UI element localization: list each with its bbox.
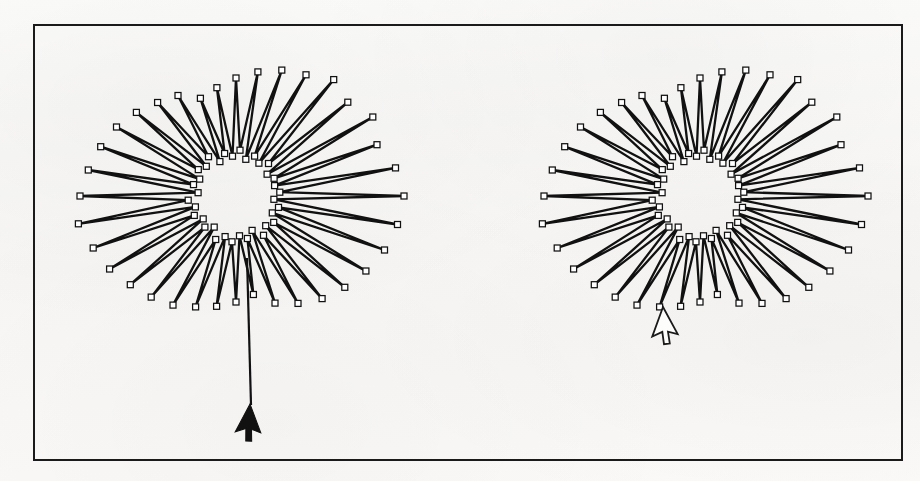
data-point-marker [827, 268, 833, 274]
data-point-marker [597, 109, 603, 115]
data-point-marker [261, 232, 267, 238]
data-point-marker [214, 85, 220, 91]
data-point-marker [541, 193, 547, 199]
data-point-marker [155, 100, 161, 106]
data-point-marker [206, 154, 212, 160]
data-point-marker [865, 193, 871, 199]
data-point-marker [701, 233, 707, 239]
data-point-marker [686, 151, 692, 157]
data-point-marker [214, 303, 220, 309]
data-point-marker [395, 222, 401, 228]
data-point-marker [148, 294, 154, 300]
data-point-marker [191, 182, 197, 188]
left-radial-star-plot [75, 67, 407, 445]
data-point-marker [834, 114, 840, 120]
data-point-marker [736, 300, 742, 306]
data-point-marker [659, 167, 665, 173]
data-point-marker [686, 234, 692, 240]
data-point-marker [655, 182, 661, 188]
data-point-marker [401, 193, 407, 199]
figure-border [34, 25, 902, 460]
data-point-marker [271, 175, 277, 181]
data-point-marker [701, 147, 707, 153]
data-point-marker [244, 236, 250, 242]
data-point-marker [255, 69, 261, 75]
data-point-marker [697, 299, 703, 305]
data-point-marker [127, 282, 133, 288]
starburst-polyline [78, 70, 404, 307]
data-point-marker [197, 176, 203, 182]
data-point-marker [175, 93, 181, 99]
data-point-marker [719, 69, 725, 75]
data-point-marker [713, 227, 719, 233]
starburst-polyline [542, 70, 868, 307]
data-point-marker [276, 204, 282, 210]
data-point-marker [272, 300, 278, 306]
data-point-marker [193, 304, 199, 310]
mouse-cursor-filled-icon[interactable] [234, 404, 271, 445]
data-point-marker [237, 147, 243, 153]
data-point-marker [272, 183, 278, 189]
data-point-marker [203, 163, 209, 169]
data-point-marker [708, 236, 714, 242]
data-point-marker [612, 294, 618, 300]
data-point-marker [191, 212, 197, 218]
data-point-marker [859, 222, 865, 228]
data-point-marker [319, 296, 325, 302]
data-point-marker [740, 204, 746, 210]
data-point-marker [857, 165, 863, 171]
mouse-cursor-hollow-icon[interactable] [651, 307, 685, 347]
data-point-marker [809, 99, 815, 105]
data-point-marker [195, 167, 201, 173]
data-point-marker [170, 302, 176, 308]
data-point-marker [75, 221, 81, 227]
data-point-marker [678, 303, 684, 309]
data-point-marker [693, 239, 699, 245]
data-point-marker [133, 109, 139, 115]
data-point-marker [728, 171, 734, 177]
data-point-marker [107, 266, 113, 272]
data-point-marker [269, 210, 275, 216]
data-point-marker [670, 154, 676, 160]
data-point-marker [303, 72, 309, 78]
data-point-marker [98, 144, 104, 150]
data-point-marker [694, 153, 700, 159]
data-point-marker [342, 284, 348, 290]
data-point-marker [655, 212, 661, 218]
data-point-marker [363, 268, 369, 274]
data-point-marker [619, 100, 625, 106]
data-point-marker [678, 85, 684, 91]
data-point-marker [681, 159, 687, 165]
data-point-marker [539, 221, 545, 227]
data-point-marker [202, 224, 208, 230]
data-point-marker [571, 266, 577, 272]
data-point-marker [249, 227, 255, 233]
data-point-marker [345, 99, 351, 105]
data-point-marker [735, 219, 741, 225]
data-point-marker [720, 160, 726, 166]
data-point-marker [578, 124, 584, 130]
data-point-marker [656, 204, 662, 210]
right-radial-star-plot [539, 67, 871, 347]
data-point-marker [211, 224, 217, 230]
data-point-marker [741, 189, 747, 195]
data-point-marker [331, 77, 337, 83]
data-point-marker [279, 67, 285, 73]
data-point-marker [277, 189, 283, 195]
data-point-marker [666, 224, 672, 230]
data-point-marker [237, 233, 243, 239]
data-point-marker [195, 190, 201, 196]
data-point-marker [264, 171, 270, 177]
data-point-marker [727, 223, 733, 229]
data-point-marker [382, 247, 388, 253]
data-point-marker [736, 183, 742, 189]
data-point-marker [714, 292, 720, 298]
data-point-marker [716, 153, 722, 159]
data-point-marker [200, 216, 206, 222]
data-point-marker [90, 245, 96, 251]
data-point-marker [77, 193, 83, 199]
data-point-marker [735, 196, 741, 202]
data-point-marker [649, 197, 655, 203]
data-point-marker [659, 190, 665, 196]
data-point-marker [85, 167, 91, 173]
